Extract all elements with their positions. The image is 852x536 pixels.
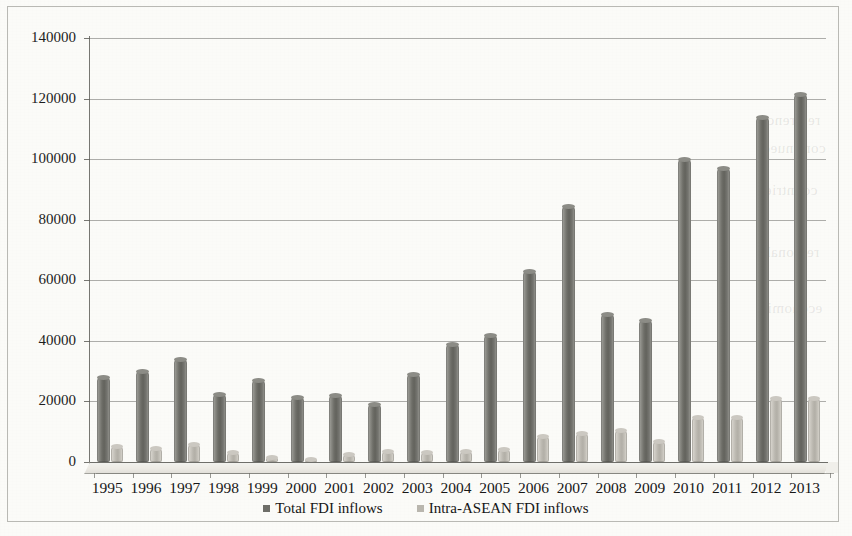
gridline-100000 bbox=[90, 159, 826, 160]
legend-label: Intra-ASEAN FDI inflows bbox=[429, 500, 589, 517]
x-tick-label-1995: 1995 bbox=[88, 479, 127, 497]
plot-area bbox=[90, 38, 826, 462]
bar-cap-icon bbox=[343, 452, 355, 457]
legend-label: Total FDI inflows bbox=[275, 500, 382, 517]
bar-total-2010 bbox=[678, 159, 691, 462]
x-tick-label-1999: 1999 bbox=[243, 479, 282, 497]
bar-cap-icon bbox=[717, 166, 730, 171]
chart-legend: Total FDI inflowsIntra-ASEAN FDI inflows bbox=[0, 500, 852, 517]
bar-cap-icon bbox=[794, 92, 807, 97]
bar-total-1998 bbox=[213, 394, 226, 462]
bar-total-2003 bbox=[407, 374, 420, 462]
x-tick-label-2002: 2002 bbox=[359, 479, 398, 497]
x-tick-2009 bbox=[636, 473, 637, 478]
bar-cap-icon bbox=[97, 375, 110, 380]
x-tick-2008 bbox=[598, 473, 599, 478]
x-tick-2005 bbox=[481, 473, 482, 478]
x-tick-2007 bbox=[559, 473, 560, 478]
x-tick-1999 bbox=[249, 473, 250, 478]
x-tick-2010 bbox=[675, 473, 676, 478]
x-tick-1997 bbox=[171, 473, 172, 478]
bar-intra-2007 bbox=[576, 433, 588, 462]
bar-total-2002 bbox=[368, 404, 381, 462]
bar-cap-icon bbox=[770, 396, 782, 401]
x-tick-2013 bbox=[791, 473, 792, 478]
bar-cap-icon bbox=[421, 450, 433, 455]
bar-total-2012 bbox=[756, 117, 769, 462]
legend-swatch-icon bbox=[263, 505, 270, 512]
bar-intra-2009 bbox=[653, 441, 665, 462]
bar-cap-icon bbox=[136, 369, 149, 374]
bar-intra-1997 bbox=[188, 444, 200, 462]
legend-swatch-icon bbox=[417, 505, 424, 512]
x-tick-2003 bbox=[404, 473, 405, 478]
x-tick-2006 bbox=[520, 473, 521, 478]
x-axis-line bbox=[90, 462, 828, 463]
fdi-inflows-bar-chart: 020000400006000080000100000120000140000 … bbox=[0, 0, 852, 536]
bar-total-2004 bbox=[446, 344, 459, 462]
x-tick-label-2009: 2009 bbox=[630, 479, 669, 497]
x-tick-label-2011: 2011 bbox=[708, 479, 747, 497]
x-tick-2011 bbox=[714, 473, 715, 478]
bar-total-1997 bbox=[174, 359, 187, 462]
bar-total-1996 bbox=[136, 371, 149, 462]
bar-cap-icon bbox=[291, 395, 304, 400]
bar-cap-icon bbox=[252, 378, 265, 383]
bar-cap-icon bbox=[484, 333, 497, 338]
bar-total-2007 bbox=[562, 206, 575, 462]
bar-total-1995 bbox=[97, 377, 110, 462]
bar-intra-2001 bbox=[343, 454, 355, 462]
bar-cap-icon bbox=[562, 204, 575, 209]
legend-item-intra-asean[interactable]: Intra-ASEAN FDI inflows bbox=[417, 500, 589, 517]
x-tick-label-2012: 2012 bbox=[747, 479, 786, 497]
x-tick-label-1998: 1998 bbox=[204, 479, 243, 497]
bar-intra-1996 bbox=[150, 448, 162, 462]
bar-cap-icon bbox=[227, 450, 239, 455]
y-tick-label-20000: 20000 bbox=[0, 392, 76, 409]
bar-intra-1995 bbox=[111, 446, 123, 462]
bar-cap-icon bbox=[460, 449, 472, 454]
x-tick-label-2007: 2007 bbox=[553, 479, 592, 497]
chart-floor-edge bbox=[826, 462, 838, 473]
bar-total-2013 bbox=[794, 94, 807, 462]
bar-total-2005 bbox=[484, 335, 497, 462]
bar-cap-icon bbox=[808, 396, 820, 401]
y-tick-label-60000: 60000 bbox=[0, 271, 76, 288]
bar-cap-icon bbox=[368, 402, 381, 407]
bar-cap-icon bbox=[498, 447, 510, 452]
x-tick-label-2010: 2010 bbox=[669, 479, 708, 497]
bar-cap-icon bbox=[382, 449, 394, 454]
x-tick-2012 bbox=[753, 473, 754, 478]
bar-total-2008 bbox=[601, 314, 614, 462]
x-tick-label-2005: 2005 bbox=[475, 479, 514, 497]
bar-cap-icon bbox=[188, 442, 200, 447]
legend-item-total[interactable]: Total FDI inflows bbox=[263, 500, 382, 517]
x-tick-label-2013: 2013 bbox=[785, 479, 824, 497]
bar-cap-icon bbox=[329, 393, 342, 398]
bar-cap-icon bbox=[537, 434, 549, 439]
y-tick-label-120000: 120000 bbox=[0, 90, 76, 107]
x-tick-label-2001: 2001 bbox=[320, 479, 359, 497]
bar-cap-icon bbox=[731, 415, 743, 420]
y-tick-label-0: 0 bbox=[0, 453, 76, 470]
gridline-80000 bbox=[90, 220, 826, 221]
x-tick-end bbox=[830, 473, 831, 478]
x-tick-2004 bbox=[443, 473, 444, 478]
bar-total-1999 bbox=[252, 380, 265, 462]
x-tick-label-2006: 2006 bbox=[514, 479, 553, 497]
bar-intra-2005 bbox=[498, 449, 510, 462]
bar-cap-icon bbox=[523, 269, 536, 274]
bar-cap-icon bbox=[407, 372, 420, 377]
x-tick-label-2004: 2004 bbox=[437, 479, 476, 497]
gridline-120000 bbox=[90, 99, 826, 100]
bar-total-2006 bbox=[523, 271, 536, 462]
x-tick-1998 bbox=[210, 473, 211, 478]
y-tick-label-140000: 140000 bbox=[0, 29, 76, 46]
bar-intra-2010 bbox=[692, 417, 704, 462]
x-tick-1996 bbox=[133, 473, 134, 478]
bar-intra-2008 bbox=[615, 430, 627, 462]
x-tick-label-2000: 2000 bbox=[282, 479, 321, 497]
bar-cap-icon bbox=[653, 439, 665, 444]
bar-cap-icon bbox=[692, 415, 704, 420]
gridline-60000 bbox=[90, 280, 826, 281]
